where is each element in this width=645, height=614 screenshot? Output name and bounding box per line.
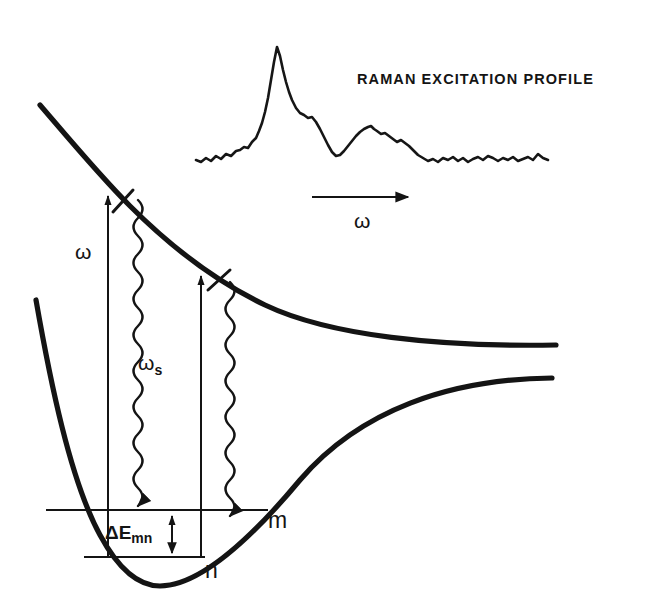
omega-scattered-subscript: s: [154, 362, 162, 378]
omega-incident-label: ω: [75, 241, 91, 262]
raman-excitation-profile-figure: RAMAN EXCITATION PROFILE ω ω ωs ΔEmn m n: [0, 0, 645, 614]
delta-energy-symbol: ΔE: [105, 522, 131, 543]
delta-energy-subscript: mn: [131, 530, 152, 546]
excited-state-repulsive-curve: [40, 105, 556, 345]
omega-scattered-label: ωs: [138, 352, 162, 373]
level-m-label: m: [268, 509, 287, 532]
page-title: RAMAN EXCITATION PROFILE: [357, 72, 594, 87]
raman-spectrum-trace: [196, 47, 548, 162]
omega-axis-label: ω: [354, 210, 370, 231]
scattered-photon-wavy-2: [226, 282, 235, 516]
omega-scattered-symbol: ω: [138, 351, 154, 374]
level-n-label: n: [205, 559, 218, 582]
delta-energy-label: ΔEmn: [105, 523, 152, 542]
diagram-canvas: [0, 0, 645, 614]
